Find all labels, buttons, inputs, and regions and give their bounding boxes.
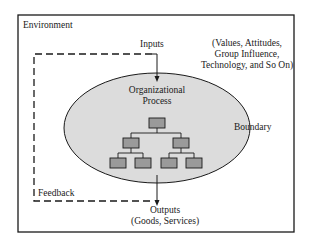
org-box-mid-right <box>173 138 189 148</box>
inputs-examples: (Values, Attitudes, Group Influence, Tec… <box>186 38 308 71</box>
org-box-top <box>149 118 165 128</box>
inputs-label: Inputs <box>140 39 164 50</box>
feedback-label: Feedback <box>38 188 74 199</box>
process-label: Organizational Process <box>117 85 197 107</box>
environment-label: Environment <box>23 20 73 31</box>
org-box-mid-left <box>123 138 139 148</box>
outputs-examples: (Goods, Services) <box>131 216 199 227</box>
outputs-label: Outputs <box>150 205 180 216</box>
org-box-bottom-1 <box>110 158 126 168</box>
boundary-label: Boundary <box>234 122 271 133</box>
org-box-bottom-3 <box>161 158 177 168</box>
org-box-bottom-2 <box>135 158 151 168</box>
org-box-bottom-4 <box>186 158 202 168</box>
